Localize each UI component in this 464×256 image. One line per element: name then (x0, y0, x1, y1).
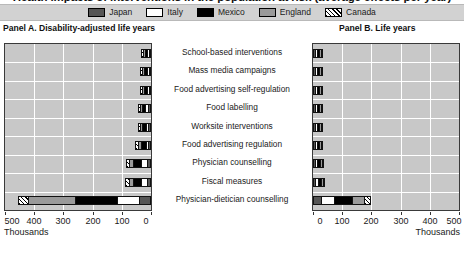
legend-item-japan: Japan (88, 8, 132, 17)
bar-plotb-row-0 (313, 49, 323, 58)
gridline-horizontal (313, 192, 459, 193)
bar-plotb-row-3 (313, 104, 323, 113)
gridline-horizontal (313, 81, 459, 82)
bar-plota-row-8 (18, 196, 151, 205)
bar-segment-mexico (334, 196, 352, 205)
axis-tick-label: 300 (393, 216, 408, 226)
axis-tick-label: 500 (446, 216, 461, 226)
bar-segment-japan (149, 67, 151, 76)
gridline-vertical (93, 44, 94, 210)
gridline-horizontal (313, 173, 459, 174)
bar-plota-row-7 (125, 178, 151, 187)
bar-segment-canada (18, 196, 28, 205)
bar-segment-canada (322, 159, 324, 168)
axis-tick (151, 212, 152, 215)
legend-swatch-england (259, 8, 276, 17)
gridline-horizontal (5, 155, 151, 156)
axis-tick-label: 0 (143, 216, 148, 226)
bar-segment-mexico (75, 196, 117, 205)
gridline-horizontal (5, 118, 151, 119)
bar-plotb-row-6 (313, 159, 324, 168)
bar-plota-row-6 (126, 159, 151, 168)
legend-label-england: England (280, 8, 311, 17)
legend-label-mexico: Mexico (218, 8, 245, 17)
axis-tick (459, 212, 460, 215)
bar-plota-row-2 (140, 86, 151, 95)
gridline-horizontal (5, 62, 151, 63)
gridline-vertical (342, 44, 343, 210)
axis-tick-label: 200 (85, 216, 100, 226)
bar-segment-japan (148, 141, 151, 150)
axis-tick-label: 400 (422, 216, 437, 226)
axis-tick (5, 212, 6, 215)
panel-a-caption: Panel A. Disability-adjusted life years (3, 23, 155, 33)
bar-segment-italy (117, 196, 139, 205)
bar-plotb-row-2 (313, 86, 323, 95)
panel-b-plot-area (312, 43, 460, 211)
bar-segment-canada (321, 104, 323, 113)
category-label: Physician counselling (153, 157, 311, 167)
gridline-horizontal (313, 99, 459, 100)
chart-legend: Japan Italy Mexico England Canada (0, 4, 464, 21)
bar-plotb-row-8 (313, 196, 371, 205)
category-label: School-based interventions (153, 47, 311, 57)
bar-segment-canada (321, 49, 323, 58)
legend-item-mexico: Mexico (197, 8, 245, 17)
panel-a-plot-area (4, 43, 152, 211)
gridline-vertical (430, 44, 431, 210)
gridline-horizontal (313, 118, 459, 119)
bar-segment-japan (148, 123, 151, 132)
bar-plota-row-4 (138, 123, 151, 132)
bar-segment-japan (149, 49, 151, 58)
bar-plota-row-5 (135, 141, 151, 150)
gridline-vertical (371, 44, 372, 210)
legend-label-canada: Canada (346, 8, 376, 17)
axis-tick (313, 212, 314, 215)
gridline-horizontal (5, 192, 151, 193)
bar-segment-canada (321, 67, 323, 76)
category-label: Mass media campaigns (153, 65, 311, 75)
axis-tick-label: 500 (4, 216, 19, 226)
bar-segment-canada (321, 123, 323, 132)
axis-tick (430, 212, 431, 215)
bar-plotb-row-5 (313, 141, 323, 150)
gridline-horizontal (5, 99, 151, 100)
gridline-vertical (63, 44, 64, 210)
axis-tick-label: 100 (114, 216, 129, 226)
figure-title: Health impacts of interventions in the p… (0, 0, 464, 3)
legend-swatch-mexico (197, 8, 214, 17)
axis-tick (371, 212, 372, 215)
panel-b-x-axis: Thousands 0100200300400500 (312, 212, 460, 242)
gridline-horizontal (313, 155, 459, 156)
bar-plotb-row-7 (313, 178, 325, 187)
gridline-horizontal (5, 136, 151, 137)
bar-segment-japan (147, 159, 151, 168)
legend-item-england: England (259, 8, 311, 17)
category-label: Food advertising regulation (153, 139, 311, 149)
gridline-horizontal (5, 81, 151, 82)
legend-label-italy: Italy (167, 8, 183, 17)
bar-segment-england (352, 196, 364, 205)
bar-segment-japan (149, 86, 151, 95)
panel-b-axis-units: Thousands (415, 227, 460, 237)
panel-a-x-axis: Thousands 5004003002001000 (4, 212, 152, 242)
bar-segment-mexico (133, 159, 141, 168)
bar-segment-italy (321, 196, 334, 205)
gridline-vertical (401, 44, 402, 210)
legend-swatch-canada (325, 8, 342, 17)
axis-tick-label: 300 (55, 216, 70, 226)
bar-segment-canada (364, 196, 371, 205)
bar-plotb-row-1 (313, 67, 323, 76)
bar-segment-canada (321, 141, 323, 150)
axis-tick (63, 212, 64, 215)
gridline-vertical (34, 44, 35, 210)
gridline-horizontal (313, 136, 459, 137)
axis-tick (34, 212, 35, 215)
axis-tick (93, 212, 94, 215)
bar-segment-japan (147, 178, 151, 187)
panel-b-caption: Panel B. Life years (339, 23, 415, 33)
bar-segment-canada (321, 86, 323, 95)
category-label: Worksite interventions (153, 121, 311, 131)
axis-tick-label: 100 (334, 216, 349, 226)
bar-segment-japan (139, 196, 151, 205)
